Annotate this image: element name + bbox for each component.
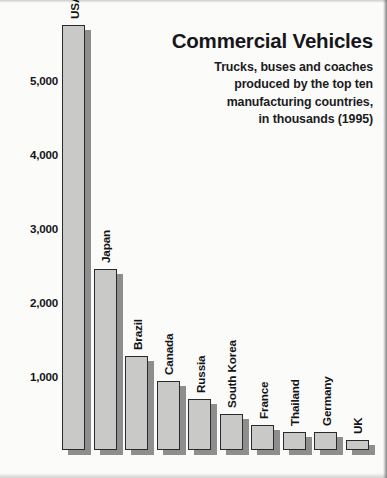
bar-body [125,356,148,450]
bar-canada[interactable]: Canada [157,381,180,450]
bar-south-korea[interactable]: South Korea [220,414,243,450]
y-axis-tick-label: 4,000 [2,148,58,161]
bar-label: Russia [193,356,206,393]
bar-body [283,432,306,451]
y-axis-tick-label: 1,000 [2,370,58,383]
bar-label: South Korea [225,341,238,409]
plot-area: 5,0004,0003,0002,0001,000 USAJapanBrazil… [0,0,387,478]
bar-usa[interactable]: USA [62,25,85,451]
y-axis-tick-label: 5,000 [2,74,58,87]
bar-label: Japan [99,230,112,263]
bar-body [220,414,243,450]
bar-france[interactable]: France [251,425,274,450]
bar-germany[interactable]: Germany [314,432,337,450]
chart-page: Commercial Vehicles Trucks, buses and co… [0,0,387,478]
bar-label: Canada [162,334,175,375]
bar-body [94,269,117,450]
bar-label: UK [351,417,364,434]
y-axis-tick-label: 2,000 [2,296,58,309]
bar-brazil[interactable]: Brazil [125,356,148,450]
y-axis: 5,0004,0003,0002,0001,000 [0,0,58,478]
bar-label: Germany [319,377,332,427]
bar-label: France [256,381,269,418]
bar-thailand[interactable]: Thailand [283,432,306,451]
bar-body [62,25,85,451]
bar-label: USA [67,0,80,19]
bar-label: Brazil [130,319,143,350]
bar-body [188,399,211,450]
bar-russia[interactable]: Russia [188,399,211,450]
bar-body [346,440,369,450]
bar-uk[interactable]: UK [346,440,369,450]
bar-label: Thailand [288,379,301,426]
bar-series: USAJapanBrazilCanadaRussiaSouth KoreaFra… [62,0,382,478]
bar-japan[interactable]: Japan [94,269,117,450]
y-axis-tick-label: 3,000 [2,222,58,235]
bar-body [157,381,180,450]
bar-body [251,425,274,450]
bar-body [314,432,337,450]
